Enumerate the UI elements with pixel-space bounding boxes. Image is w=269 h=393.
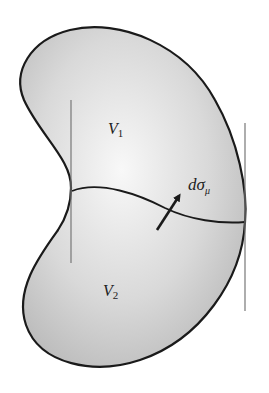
region-outline — [20, 27, 245, 366]
kidney-region-diagram: V1 V2 dσμ — [0, 0, 269, 393]
